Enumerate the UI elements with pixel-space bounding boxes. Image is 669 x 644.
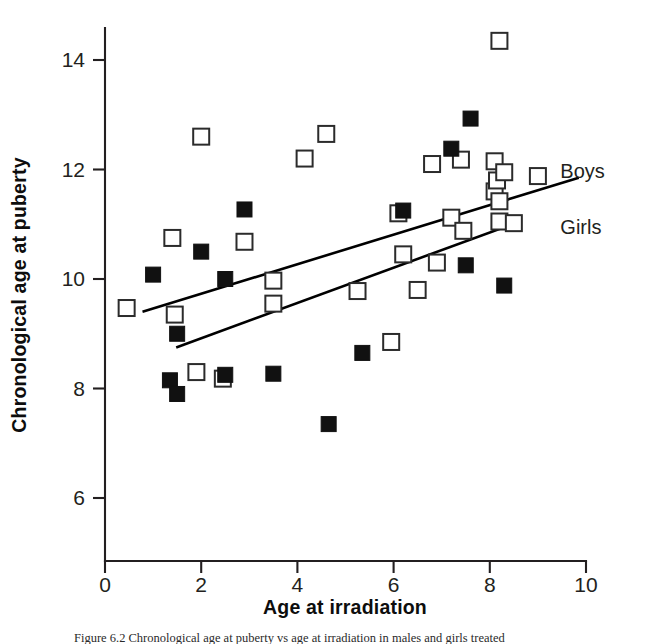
x-tick-label-0: 0 bbox=[99, 573, 111, 596]
data-point-girls bbox=[297, 151, 313, 167]
data-point-girls bbox=[506, 215, 522, 231]
x-tick-group: 0246810 bbox=[99, 561, 598, 596]
data-point-boys bbox=[321, 417, 336, 432]
y-tick-label-8: 8 bbox=[73, 377, 85, 400]
data-point-girls bbox=[167, 307, 183, 323]
data-point-girls bbox=[530, 168, 546, 184]
data-point-boys bbox=[162, 373, 177, 388]
data-point-boys bbox=[355, 345, 370, 360]
data-point-boys bbox=[463, 111, 478, 126]
data-point-girls bbox=[496, 164, 512, 180]
data-point-girls bbox=[193, 129, 209, 145]
data-point-girls bbox=[265, 273, 281, 289]
data-point-girls bbox=[265, 296, 281, 312]
data-point-girls bbox=[429, 255, 445, 271]
x-tick-label-4: 4 bbox=[292, 573, 304, 596]
data-point-girls bbox=[188, 364, 204, 380]
data-point-boys bbox=[497, 278, 512, 293]
data-point-girls bbox=[350, 283, 366, 299]
x-tick-label-8: 8 bbox=[484, 573, 496, 596]
x-tick-label-10: 10 bbox=[574, 573, 597, 596]
data-point-girls bbox=[455, 223, 471, 239]
series-label-boys: Boys bbox=[560, 160, 604, 182]
series-label-group: BoysGirls bbox=[560, 160, 604, 238]
data-point-girls bbox=[491, 33, 507, 49]
data-point-girls bbox=[410, 282, 426, 298]
data-point-boys bbox=[444, 141, 459, 156]
data-point-girls bbox=[424, 156, 440, 172]
y-tick-group: 68101214 bbox=[62, 48, 105, 509]
data-point-girls bbox=[383, 334, 399, 350]
y-tick-label-12: 12 bbox=[62, 158, 85, 181]
y-tick-label-10: 10 bbox=[62, 267, 85, 290]
x-tick-label-6: 6 bbox=[388, 573, 400, 596]
data-point-girls bbox=[395, 246, 411, 262]
data-point-boys bbox=[266, 366, 281, 381]
data-point-boys bbox=[396, 203, 411, 218]
data-point-girls bbox=[119, 300, 135, 316]
data-point-girls bbox=[236, 234, 252, 250]
data-point-boys bbox=[170, 326, 185, 341]
data-point-boys bbox=[146, 267, 161, 282]
data-point-girls bbox=[491, 193, 507, 209]
data-point-boys bbox=[237, 202, 252, 217]
data-point-boys bbox=[194, 244, 209, 259]
y-tick-label-6: 6 bbox=[73, 486, 85, 509]
data-point-boys bbox=[218, 272, 233, 287]
y-axis-title: Chronological age at puberty bbox=[8, 157, 30, 432]
data-point-girls bbox=[318, 126, 334, 142]
x-axis-title: Age at irradiation bbox=[263, 596, 427, 618]
figure-caption: Figure 6.2 Chronological age at puberty … bbox=[74, 631, 664, 644]
data-point-girls bbox=[164, 230, 180, 246]
series-label-girls: Girls bbox=[560, 216, 601, 238]
x-tick-label-2: 2 bbox=[195, 573, 207, 596]
plot-canvas: 68101214 0246810 BoysGirls Age at irradi… bbox=[0, 0, 669, 644]
y-tick-label-14: 14 bbox=[62, 48, 86, 71]
data-point-boys bbox=[170, 386, 185, 401]
figure-scatter-plot: 68101214 0246810 BoysGirls Age at irradi… bbox=[0, 0, 669, 644]
data-point-boys bbox=[458, 258, 473, 273]
data-point-boys bbox=[218, 367, 233, 382]
regression-line-group bbox=[143, 178, 579, 348]
